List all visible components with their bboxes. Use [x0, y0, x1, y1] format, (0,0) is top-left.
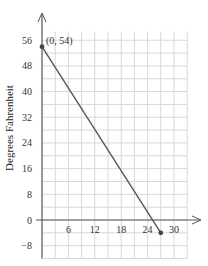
- data-point: [40, 44, 45, 49]
- y-tick-label: −8: [21, 240, 32, 251]
- y-tick-label: 40: [22, 86, 32, 97]
- y-tick-label: 8: [27, 189, 32, 200]
- y-tick-labels: −808162432404856: [21, 35, 32, 251]
- data-point: [158, 230, 163, 235]
- y-tick-label: 24: [22, 137, 32, 148]
- y-tick-label: 16: [22, 163, 32, 174]
- point-annotation: (0, 54): [46, 35, 73, 47]
- data-series: [40, 44, 164, 235]
- y-axis-label: Degrees Fahrenheit: [3, 85, 15, 171]
- x-tick-label: 12: [90, 224, 100, 235]
- chart: −808162432404856 612182430 Degrees Fahre…: [0, 0, 208, 266]
- x-tick-label: 18: [116, 224, 126, 235]
- y-tick-label: 32: [22, 112, 32, 123]
- x-tick-label: 6: [66, 224, 71, 235]
- axes: [36, 13, 201, 259]
- grid-lines: [42, 31, 187, 258]
- y-tick-label: 0: [27, 215, 32, 226]
- data-line: [42, 47, 161, 233]
- y-tick-label: 56: [22, 35, 32, 46]
- x-tick-label: 30: [169, 224, 179, 235]
- y-tick-label: 48: [22, 60, 32, 71]
- x-tick-label: 24: [143, 224, 153, 235]
